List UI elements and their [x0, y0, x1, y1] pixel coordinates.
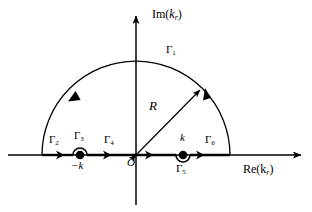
- origin-label: O: [127, 157, 135, 168]
- contour-label-gamma5: Γ5: [176, 163, 186, 176]
- radius-label: R: [149, 99, 157, 112]
- axis-label-imaginary: Im(kr): [152, 8, 182, 22]
- axis-label-real: Re(kr): [243, 163, 273, 177]
- contour-label-gamma4: Γ4: [104, 134, 114, 147]
- contour-label-gamma1: Γ1: [166, 44, 176, 57]
- pole-negative-k-label: −k: [71, 160, 83, 171]
- radius-arrow: [136, 90, 200, 155]
- pole-positive-k-label: k: [180, 132, 185, 143]
- pole-negative-k-dot: [76, 151, 85, 160]
- figure-canvas: Im(kr) Re(kr) O R −k k Γ1 Γ2 Γ3 Γ4 Γ5 Γ6: [0, 0, 312, 212]
- contour-label-gamma3: Γ3: [74, 130, 84, 143]
- contour-label-gamma2: Γ2: [49, 134, 59, 147]
- pole-positive-k-dot: [179, 151, 188, 160]
- contour-label-gamma6: Γ6: [205, 134, 215, 147]
